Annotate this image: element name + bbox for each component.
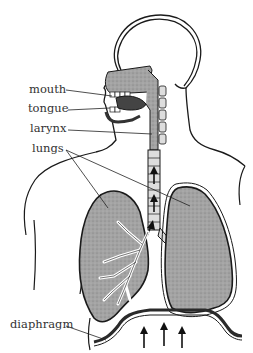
label-lungs: lungs: [32, 143, 64, 155]
leader-lungs-a: [66, 150, 108, 208]
label-tongue: tongue: [28, 103, 69, 115]
airflow-arrows-diaphragm: [140, 322, 186, 348]
tongue: [116, 96, 146, 110]
leader-tongue: [68, 108, 110, 110]
nasal-cavity: [105, 66, 152, 94]
pharynx: [146, 70, 158, 150]
vertebrae: [159, 86, 166, 144]
leader-larynx: [68, 130, 152, 134]
lung-right: [165, 187, 232, 313]
jaw: [106, 112, 140, 122]
respiratory-illustration: [0, 0, 253, 353]
label-mouth: mouth: [29, 84, 66, 96]
label-diaphragm: diaphragm: [10, 319, 73, 331]
label-larynx: larynx: [30, 123, 66, 135]
